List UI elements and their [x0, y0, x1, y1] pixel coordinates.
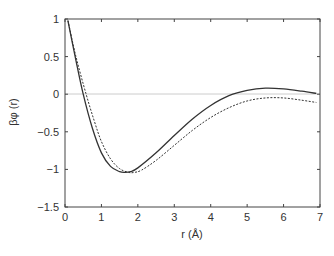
dashed-curve	[68, 21, 316, 173]
x-tick-label: 3	[171, 211, 177, 223]
x-tick-label: 7	[317, 211, 323, 223]
y-tick-label: −1	[46, 163, 59, 175]
y-tick-label: 1	[53, 13, 59, 25]
y-tick-label: 0	[53, 88, 59, 100]
y-tick-label: 0.5	[44, 51, 59, 63]
y-axis: 10.50−0.5−1−1.5	[37, 13, 320, 213]
x-axis-label: r (Å)	[181, 228, 202, 240]
plot-frame	[65, 19, 320, 207]
x-axis: 01234567	[62, 19, 323, 223]
x-tick-label: 2	[135, 211, 141, 223]
y-tick-label: −1.5	[37, 201, 59, 213]
x-tick-label: 0	[62, 211, 68, 223]
x-tick-label: 1	[98, 211, 104, 223]
x-tick-label: 4	[208, 211, 214, 223]
curves	[68, 21, 316, 173]
x-tick-label: 5	[244, 211, 250, 223]
y-tick-label: −0.5	[37, 126, 59, 138]
chart: 01234567 10.50−0.5−1−1.5 r (Å) βφ (r)	[0, 0, 334, 256]
x-tick-label: 6	[281, 211, 287, 223]
y-axis-label: βφ (r)	[7, 98, 19, 126]
